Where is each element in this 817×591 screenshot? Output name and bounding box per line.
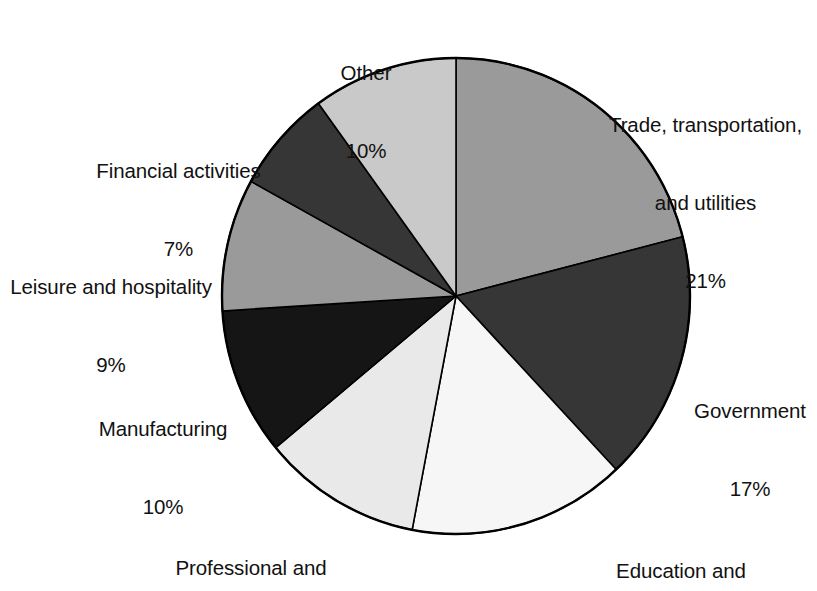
slice-label-other-percent: 10% <box>251 138 481 164</box>
slice-label-trade-name-line1: Trade, transportation, <box>594 112 817 138</box>
slice-label-other-name: Other <box>251 60 481 86</box>
slice-label-education: Education and health services 15% <box>576 506 786 591</box>
slice-label-trade: Trade, transportation, and utilities 21% <box>594 60 817 346</box>
slice-label-manufacturing-percent: 10% <box>73 494 253 520</box>
slice-label-financial: Financial activities 7% <box>85 106 272 314</box>
slice-label-leisure-percent: 9% <box>3 352 219 378</box>
pie-chart: Other 10% Trade, transportation, and uti… <box>0 0 817 591</box>
slice-label-trade-percent: 21% <box>594 268 817 294</box>
slice-label-financial-percent: 7% <box>85 236 272 262</box>
slice-label-other: Other 10% <box>251 8 481 216</box>
slice-label-government-percent: 17% <box>683 476 817 502</box>
slice-label-government-name: Government <box>683 398 817 424</box>
slice-label-education-name-line1: Education and <box>576 558 786 584</box>
slice-label-financial-name: Financial activities <box>85 158 272 184</box>
slice-label-trade-name-line2: and utilities <box>594 190 817 216</box>
